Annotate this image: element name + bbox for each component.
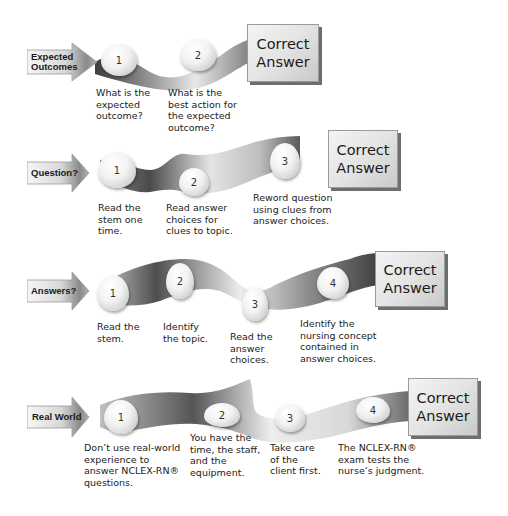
step-4-badge: 4 (356, 397, 390, 423)
step-1-badge: 1 (101, 44, 137, 76)
row-label-arrow: Expected Outcomes (27, 43, 99, 85)
step-4-caption: The NCLEX-RN® exam tests the nurse’s jud… (338, 442, 424, 477)
row-real-world: Real World 1 2 3 4 Correct Answer Don’t … (0, 375, 508, 516)
step-3-caption: Reword question using clues from answer … (253, 192, 332, 227)
step-2-badge: 2 (166, 263, 194, 299)
row-question: Question? 1 2 3 Correct Answer Read the … (0, 130, 508, 245)
step-1-caption: What is the expected outcome? (96, 87, 150, 122)
step-4-badge: 4 (317, 267, 349, 299)
row-label: Expected Outcomes (31, 52, 77, 72)
step-3-badge: 3 (242, 287, 268, 321)
step-2-badge: 2 (204, 403, 240, 427)
step-3-badge: 3 (275, 404, 305, 432)
step-2-caption: Identify the topic. (163, 321, 208, 344)
step-2-badge: 2 (180, 39, 216, 71)
step-3-caption: Take care of the client first. (270, 442, 321, 477)
step-3-caption: Read the answer choices. (230, 331, 272, 366)
row-answers: Answers? 1 2 3 4 Correct Answer Read the… (0, 245, 508, 375)
row-label: Real World (32, 412, 81, 422)
step-2-caption: Read answer choices for clues to topic. (166, 202, 233, 237)
correct-answer-box: Correct Answer (408, 378, 478, 436)
step-1-caption: Read the stem one time. (98, 202, 142, 237)
row-label: Question? (31, 168, 78, 178)
step-1-badge: 1 (104, 400, 138, 434)
row-label-arrow: Answers? (27, 272, 91, 314)
step-1-badge: 1 (97, 275, 129, 311)
step-2-caption: What is the best action for the expected… (168, 87, 237, 133)
correct-answer-box: Correct Answer (375, 251, 445, 307)
step-4-caption: Identify the nursing concept contained i… (300, 318, 377, 364)
row-label-arrow: Question? (27, 154, 91, 196)
step-1-badge: 1 (98, 152, 136, 188)
correct-answer-box: Correct Answer (247, 24, 319, 82)
row-label: Answers? (31, 286, 76, 296)
step-2-caption: You have the time, the staff, and the eq… (190, 432, 260, 478)
row-label-arrow: Real World (27, 397, 91, 441)
step-1-caption: Don’t use real-world experience to answe… (84, 442, 180, 488)
step-1-caption: Read the stem. (97, 321, 139, 344)
correct-answer-box: Correct Answer (328, 130, 398, 188)
row-expected-outcomes: Expected Outcomes 1 2 Correct Answer Wha… (0, 0, 508, 130)
step-2-badge: 2 (179, 168, 209, 196)
step-3-badge: 3 (270, 143, 300, 179)
